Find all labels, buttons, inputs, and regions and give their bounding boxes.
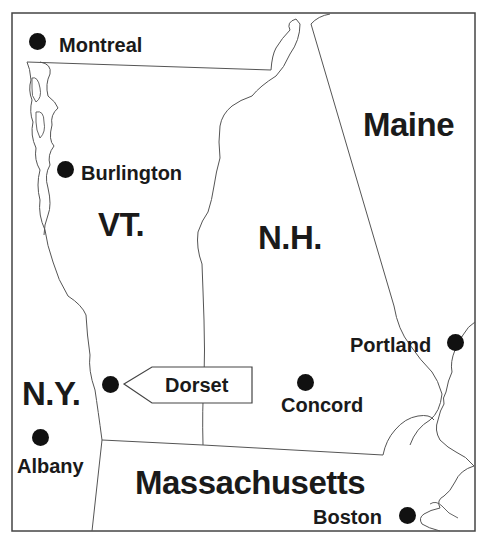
city-marker-montreal xyxy=(29,33,46,50)
ma-coast-inner xyxy=(430,502,458,518)
city-label-concord: Concord xyxy=(281,395,363,415)
state-label-nh: N.H. xyxy=(258,221,322,254)
city-marker-dorset xyxy=(102,376,119,393)
state-label-maine: Maine xyxy=(363,108,454,141)
city-marker-portland xyxy=(447,334,464,351)
state-label-massachusetts: Massachusetts xyxy=(135,466,365,499)
city-label-dorset: Dorset xyxy=(165,375,228,395)
city-label-portland: Portland xyxy=(350,335,431,355)
border-ma-north xyxy=(102,416,434,456)
city-marker-albany xyxy=(32,429,49,446)
state-label-vt: VT. xyxy=(98,208,144,241)
lake-champlain-east-shore xyxy=(40,62,58,235)
ma-coast xyxy=(420,466,474,531)
lake-island-2 xyxy=(36,112,45,138)
city-label-boston: Boston xyxy=(313,507,382,527)
border-ny-ma xyxy=(92,440,102,531)
city-marker-burlington xyxy=(57,161,74,178)
city-label-albany: Albany xyxy=(17,456,84,476)
lake-island-1 xyxy=(32,78,41,102)
city-label-burlington: Burlington xyxy=(81,163,182,183)
city-marker-concord xyxy=(297,374,314,391)
city-marker-boston xyxy=(399,507,416,524)
border-canada-vt xyxy=(27,62,271,70)
border-nh-maine xyxy=(311,24,442,445)
city-label-montreal: Montreal xyxy=(59,35,142,55)
state-label-ny: N.Y. xyxy=(22,377,81,410)
border-maine-north xyxy=(311,14,330,24)
map-frame xyxy=(12,13,475,531)
